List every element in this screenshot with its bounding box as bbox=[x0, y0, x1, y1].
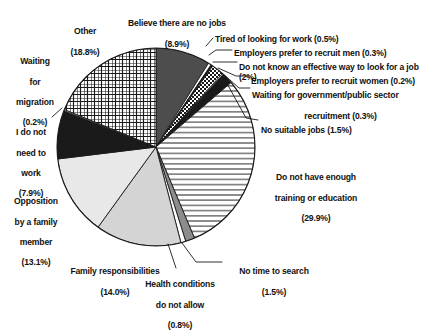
label-no-time-to-search: No time to search (1.5%) bbox=[222, 256, 326, 307]
label-value: (13.1%) bbox=[2, 257, 70, 267]
label-text: Waiting for government/public sector bbox=[252, 90, 429, 100]
label-text-2: need to bbox=[1, 148, 61, 158]
label-value: (0.2%) bbox=[4, 117, 66, 127]
label-text-3: member bbox=[2, 237, 70, 247]
label-text: Family responsibilities bbox=[58, 266, 172, 276]
label-value: (29.9%) bbox=[256, 213, 376, 223]
label-other: Other (18.8%) bbox=[50, 16, 120, 67]
label-family-responsibilities: Family responsibilities (14.0%) bbox=[58, 256, 172, 307]
label-no-suitable-jobs: No suitable jobs (1.5%) bbox=[261, 115, 421, 146]
label-value: (18.8%) bbox=[50, 47, 120, 57]
leader-line-no-time-to-search bbox=[182, 243, 222, 262]
label-text-2: for bbox=[4, 77, 66, 87]
pie-slices-group bbox=[57, 48, 255, 246]
label-text: Other bbox=[50, 26, 120, 36]
label-text-2: training or education bbox=[256, 193, 376, 203]
label-value: (7.9%) bbox=[1, 188, 61, 198]
label-value: (1.5%) bbox=[222, 287, 326, 297]
label-text-3: migration bbox=[4, 97, 66, 107]
label-do-not-have-enough-training: Do not have enough training or education… bbox=[256, 162, 376, 233]
label-text-3: work bbox=[1, 168, 61, 178]
label-value: (14.0%) bbox=[58, 287, 172, 297]
label-text: No time to search bbox=[222, 266, 326, 276]
label-text: Do not have enough bbox=[256, 172, 376, 182]
label-text: No suitable jobs (1.5%) bbox=[261, 125, 421, 135]
label-text-2: by a family bbox=[2, 217, 70, 227]
label-value: (0.8%) bbox=[134, 320, 226, 330]
